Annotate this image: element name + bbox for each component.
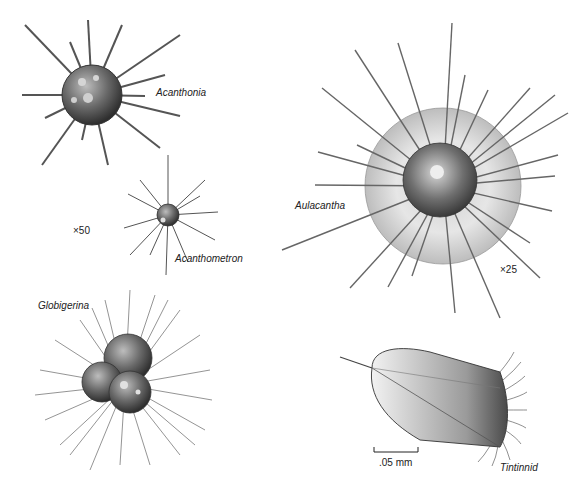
tintinnid-organism: [340, 349, 527, 466]
scale-bar: [374, 447, 418, 452]
illustration-canvas: [0, 0, 584, 490]
globigerina-organism: [35, 290, 212, 470]
magnification-right: ×25: [500, 264, 517, 275]
label-aulacantha: Aulacantha: [295, 200, 345, 211]
label-tintinnid: Tintinnid: [500, 462, 538, 473]
magnification-left: ×50: [73, 225, 90, 236]
scale-bar-label: .05 mm: [379, 457, 412, 468]
label-acanthometron: Acanthometron: [175, 253, 243, 264]
aulacantha-organism: [282, 23, 568, 318]
label-acanthonia: Acanthonia: [156, 87, 206, 98]
label-globigerina: Globigerina: [38, 300, 89, 311]
